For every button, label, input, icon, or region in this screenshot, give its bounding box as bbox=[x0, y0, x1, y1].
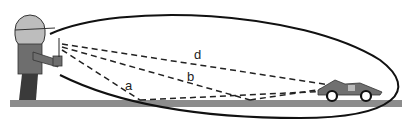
ground bbox=[10, 100, 402, 107]
radio-propagation-diagram: a b d bbox=[0, 0, 404, 123]
diagram-canvas bbox=[0, 0, 404, 123]
path-a-reflected bbox=[140, 91, 330, 100]
label-b: b bbox=[187, 70, 194, 83]
label-d: d bbox=[194, 48, 201, 61]
label-a: a bbox=[125, 79, 132, 92]
person-icon bbox=[15, 15, 62, 100]
path-b-incident bbox=[62, 47, 250, 100]
rc-car-icon bbox=[318, 80, 382, 101]
